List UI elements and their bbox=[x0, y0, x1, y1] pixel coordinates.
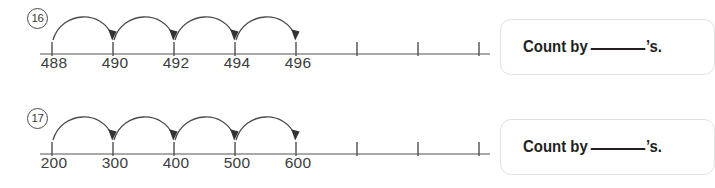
problem-row: 17 bbox=[0, 94, 697, 188]
tick-label: 492 bbox=[163, 53, 189, 73]
tick-label: 488 bbox=[41, 53, 67, 73]
count-by-prompt: Count by’s. bbox=[523, 34, 662, 60]
count-by-prompt: Count by’s. bbox=[523, 134, 662, 160]
number-line-labels: 200 300 400 500 600 bbox=[40, 153, 490, 175]
tick-label: 496 bbox=[285, 53, 311, 73]
count-by-prompt-box: Count by’s. bbox=[500, 119, 715, 175]
count-by-answer-blank[interactable] bbox=[590, 134, 645, 150]
count-by-prompt-box: Count by’s. bbox=[500, 19, 715, 75]
count-by-suffix: ’s. bbox=[646, 137, 662, 156]
count-by-suffix: ’s. bbox=[646, 37, 662, 56]
count-by-answer-blank[interactable] bbox=[590, 34, 645, 50]
number-line-labels: 488 490 492 494 496 bbox=[40, 53, 490, 75]
tick-label: 500 bbox=[224, 153, 250, 173]
tick-label: 300 bbox=[102, 153, 128, 173]
tick-label: 600 bbox=[285, 153, 311, 173]
tick-label: 200 bbox=[41, 153, 67, 173]
tick-label: 490 bbox=[102, 53, 128, 73]
skip-count-hops bbox=[53, 117, 300, 141]
count-by-prefix: Count by bbox=[523, 137, 588, 156]
tick-label: 400 bbox=[163, 153, 189, 173]
problem-row: 16 bbox=[0, 0, 697, 94]
count-by-prefix: Count by bbox=[523, 37, 588, 56]
skip-count-hops bbox=[53, 17, 300, 41]
tick-label: 494 bbox=[224, 53, 250, 73]
